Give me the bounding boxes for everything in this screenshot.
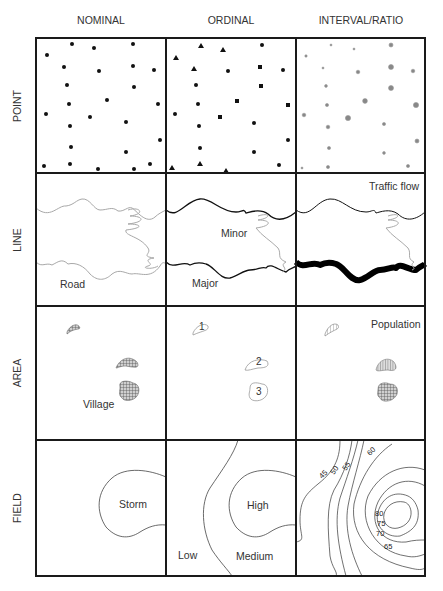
label-rank-2: 2	[256, 356, 262, 367]
label-road: Road	[60, 278, 85, 290]
label-major: Major	[192, 277, 218, 289]
svg-text:60: 60	[365, 445, 377, 457]
svg-text:80: 80	[375, 509, 383, 518]
label-minor: Minor	[221, 227, 247, 239]
field-interval-isolines	[296, 440, 425, 576]
label-population: Population	[371, 318, 421, 330]
label-high: High	[247, 499, 269, 511]
label-rank-3: 3	[256, 386, 262, 397]
svg-text:45: 45	[317, 468, 329, 480]
label-rank-1: 1	[199, 321, 205, 332]
label-storm: Storm	[119, 498, 147, 510]
svg-text:55: 55	[340, 460, 352, 472]
svg-text:70: 70	[376, 529, 384, 538]
svg-text:50: 50	[328, 464, 340, 476]
area-nominal-villages	[67, 325, 139, 401]
label-low: Low	[178, 549, 197, 561]
area-interval-population	[325, 324, 398, 401]
point-interval-graduated-symbols	[301, 43, 419, 169]
label-medium: Medium	[236, 550, 273, 562]
svg-text:75: 75	[377, 519, 385, 528]
measurement-levels-diagram: 45 50 55 60 65 70 75 80	[0, 0, 443, 591]
line-interval-traffic-flow	[296, 199, 425, 280]
svg-text:65: 65	[384, 542, 392, 551]
point-ordinal-symbols	[169, 43, 290, 173]
line-nominal-roads	[36, 199, 166, 279]
point-nominal-dots	[42, 42, 162, 171]
label-traffic-flow: Traffic flow	[369, 180, 419, 192]
label-village: Village	[83, 398, 114, 410]
